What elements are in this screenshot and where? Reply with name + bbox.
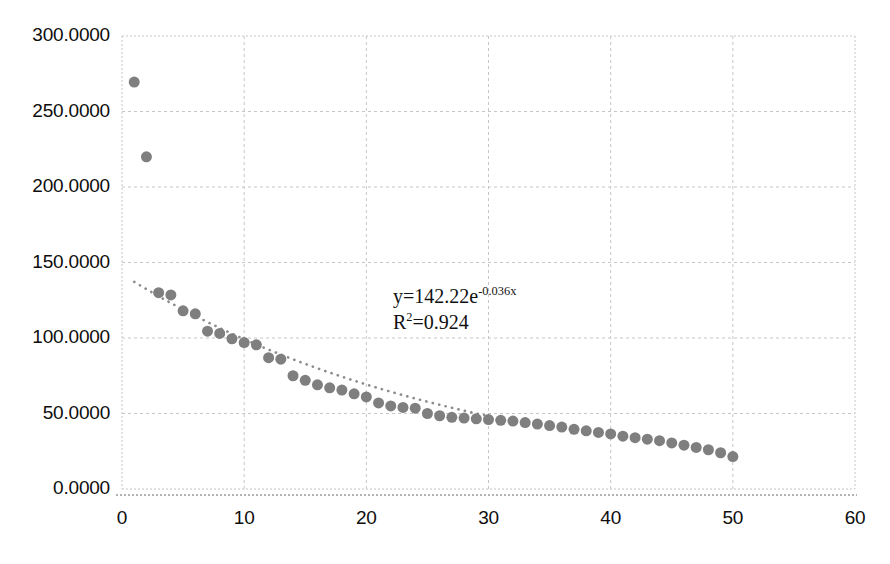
data-point	[336, 385, 347, 396]
equation-line: y=142.22e-0.036x	[393, 283, 516, 309]
y-axis-tick-label: 150.0000	[0, 251, 110, 273]
r-squared-line: R2=0.924	[393, 309, 516, 335]
data-point	[141, 151, 152, 162]
y-axis-tick-label: 100.0000	[0, 326, 110, 348]
data-point	[190, 308, 201, 319]
data-point	[373, 397, 384, 408]
data-point	[385, 400, 396, 411]
data-point	[593, 427, 604, 438]
data-point	[361, 391, 372, 402]
data-point	[617, 431, 628, 442]
data-point	[691, 442, 702, 453]
data-point	[324, 382, 335, 393]
data-point	[495, 415, 506, 426]
data-point	[507, 416, 518, 427]
data-point	[178, 305, 189, 316]
data-point	[630, 432, 641, 443]
data-point	[678, 440, 689, 451]
data-point	[153, 287, 164, 298]
grid-lines	[116, 36, 857, 495]
data-point	[251, 339, 262, 350]
data-point	[349, 388, 360, 399]
data-point	[129, 77, 140, 88]
data-point	[275, 354, 286, 365]
data-point	[471, 413, 482, 424]
x-axis-tick-label: 10	[214, 507, 274, 529]
equation-exponent: -0.036x	[478, 284, 516, 298]
x-axis-tick-label: 50	[703, 507, 763, 529]
data-point	[446, 412, 457, 423]
scatter-chart: 0.000050.0000100.0000150.0000200.0000250…	[0, 0, 890, 564]
y-axis-tick-label: 200.0000	[0, 175, 110, 197]
data-point	[312, 379, 323, 390]
trendline-equation-annotation: y=142.22e-0.036x R2=0.924	[393, 283, 516, 336]
data-point	[666, 437, 677, 448]
data-point	[727, 451, 738, 462]
data-point	[459, 413, 470, 424]
data-point	[165, 289, 176, 300]
data-point	[214, 328, 225, 339]
data-point	[703, 444, 714, 455]
x-axis-tick-label: 60	[825, 507, 885, 529]
data-point	[300, 375, 311, 386]
equation-text: y=142.22e	[393, 285, 478, 307]
y-axis-tick-label: 0.0000	[0, 477, 110, 499]
data-point	[483, 414, 494, 425]
data-point	[642, 434, 653, 445]
data-point	[605, 428, 616, 439]
data-point	[581, 425, 592, 436]
data-point	[422, 408, 433, 419]
x-axis-tick-label: 0	[92, 507, 152, 529]
y-axis-tick-label: 50.0000	[0, 402, 110, 424]
y-axis-tick-label: 300.0000	[0, 24, 110, 46]
data-point	[288, 370, 299, 381]
data-point	[397, 402, 408, 413]
data-point	[410, 403, 421, 414]
data-point	[715, 447, 726, 458]
data-point	[202, 326, 213, 337]
x-axis-tick-label: 20	[336, 507, 396, 529]
data-point	[654, 435, 665, 446]
y-axis-tick-label: 250.0000	[0, 100, 110, 122]
data-point	[263, 352, 274, 363]
r-squared-value: =0.924	[413, 311, 469, 333]
data-point	[434, 410, 445, 421]
data-point	[532, 419, 543, 430]
data-point	[544, 420, 555, 431]
x-axis-tick-label: 30	[459, 507, 519, 529]
plot-area	[0, 0, 890, 564]
r-squared-label: R	[393, 311, 406, 333]
data-point	[569, 424, 580, 435]
x-axis-tick-label: 40	[581, 507, 641, 529]
data-point	[520, 417, 531, 428]
data-point	[226, 333, 237, 344]
data-point	[556, 422, 567, 433]
data-point	[239, 337, 250, 348]
